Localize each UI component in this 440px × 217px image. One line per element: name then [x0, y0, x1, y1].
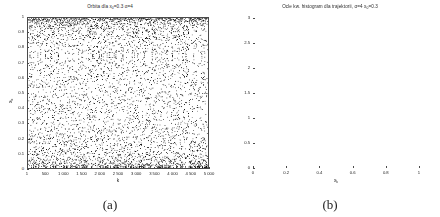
- figure-container: Orbita dla x0=0.3 α=4 00.10.20.30.40.50.…: [0, 0, 440, 217]
- x-tick-mark-a: [63, 167, 64, 169]
- y-tick-label-a: 0.5: [3, 91, 24, 95]
- y-tick-label-b: 2.5: [233, 41, 250, 45]
- panel-a: Orbita dla x0=0.3 α=4 00.10.20.30.40.50.…: [0, 0, 220, 217]
- y-tick-label-b: 0.5: [233, 141, 250, 145]
- y-tick-mark-a: [27, 123, 29, 124]
- y-tick-label-a: 0.7: [3, 61, 24, 65]
- x-axis-label-a: k: [27, 178, 209, 183]
- x-tick-label-b: 1: [407, 171, 431, 175]
- x-tick-mark-a: [136, 167, 137, 169]
- scatter-plot-area: [27, 17, 209, 169]
- y-tick-mark-a: [27, 169, 29, 170]
- chart-title-a-rest: =0.3 α=4: [114, 4, 133, 9]
- y-tick-mark-b: [253, 118, 255, 119]
- x-tick-mark-b: [419, 166, 420, 168]
- y-tick-mark-a: [27, 17, 29, 18]
- x-tick-mark-a: [45, 167, 46, 169]
- x-tick-mark-b: [253, 166, 254, 168]
- x-tick-label-b: 0.6: [341, 171, 365, 175]
- x-tick-label-b: 0.4: [307, 171, 331, 175]
- y-tick-mark-a: [27, 154, 29, 155]
- x-tick-mark-a: [154, 167, 155, 169]
- x-tick-label-b: 0.2: [274, 171, 298, 175]
- y-tick-label-b: 1.5: [233, 91, 250, 95]
- y-tick-mark-b: [253, 68, 255, 69]
- chart-title-b-main: Ocle kw. histogram dla trajektorii, α=4 …: [282, 4, 366, 9]
- y-tick-label-a: 0.1: [3, 152, 24, 156]
- y-tick-mark-b: [253, 168, 255, 169]
- x-tick-mark-b: [353, 166, 354, 168]
- y-tick-label-a: 0.6: [3, 76, 24, 80]
- y-axis-label-a: xk: [8, 99, 14, 103]
- x-tick-mark-a: [118, 167, 119, 169]
- subfigure-caption-a: (a): [0, 197, 220, 213]
- y-tick-label-a: 1: [3, 15, 24, 19]
- chart-title-b-rest: =0.3: [368, 4, 377, 9]
- y-tick-mark-a: [27, 78, 29, 79]
- scatter-points-canvas: [28, 18, 208, 168]
- y-tick-label-a: 0.9: [3, 30, 24, 34]
- x-axis-label-b-sub: k: [336, 180, 338, 184]
- y-tick-mark-a: [27, 47, 29, 48]
- x-tick-mark-a: [100, 167, 101, 169]
- y-tick-mark-b: [253, 43, 255, 44]
- y-tick-mark-b: [253, 18, 255, 19]
- y-tick-label-a: 0.3: [3, 121, 24, 125]
- x-tick-mark-b: [386, 166, 387, 168]
- x-tick-mark-a: [27, 167, 28, 169]
- y-tick-label-b: 3: [233, 16, 250, 20]
- chart-title-a-main: Orbita dla x: [87, 4, 112, 9]
- y-tick-mark-a: [27, 139, 29, 140]
- y-tick-mark-a: [27, 108, 29, 109]
- y-tick-label-a: 0.2: [3, 137, 24, 141]
- x-tick-label-a: 5 000: [197, 172, 221, 176]
- y-tick-label-a: 0.4: [3, 106, 24, 110]
- y-tick-label-b: 2: [233, 66, 250, 70]
- x-tick-label-b: 0.8: [374, 171, 398, 175]
- y-tick-mark-b: [253, 143, 255, 144]
- subfigure-caption-b: (b): [220, 197, 440, 213]
- x-tick-mark-a: [173, 167, 174, 169]
- y-tick-mark-b: [253, 93, 255, 94]
- chart-title-a: Orbita dla x0=0.3 α=4: [0, 4, 220, 11]
- y-tick-label-b: 0: [233, 166, 250, 170]
- panel-b: Ocle kw. histogram dla trajektorii, α=4 …: [220, 0, 440, 217]
- y-tick-label-a: 0.8: [3, 45, 24, 49]
- x-axis-label-a-main: k: [117, 178, 119, 183]
- chart-title-b: Ocle kw. histogram dla trajektorii, α=4 …: [220, 4, 440, 11]
- x-tick-label-b: 0: [241, 171, 265, 175]
- y-tick-mark-a: [27, 63, 29, 64]
- x-tick-mark-a: [82, 167, 83, 169]
- x-tick-mark-a: [191, 167, 192, 169]
- x-tick-mark-a: [209, 167, 210, 169]
- x-tick-mark-b: [286, 166, 287, 168]
- y-axis-label-a-sub: k: [10, 99, 14, 101]
- y-tick-label-a: 0: [3, 167, 24, 171]
- x-axis-label-b: xk: [253, 178, 419, 184]
- y-tick-mark-a: [27, 93, 29, 94]
- y-tick-mark-a: [27, 32, 29, 33]
- x-tick-mark-b: [319, 166, 320, 168]
- y-tick-label-b: 1: [233, 116, 250, 120]
